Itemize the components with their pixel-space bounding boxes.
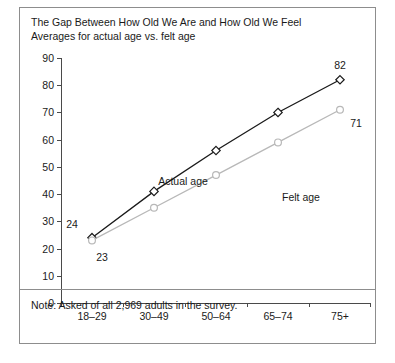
- chart-note: Note: Asked of all 2,969 adults in the s…: [31, 299, 237, 312]
- data-point-marker: [336, 76, 344, 84]
- x-axis-tick: [370, 303, 371, 307]
- y-axis-tick-label: 60: [42, 134, 54, 145]
- x-axis-category-label: 75+: [331, 310, 349, 322]
- data-point-marker: [337, 106, 344, 113]
- y-axis-tick-label: 40: [42, 189, 54, 200]
- chart-title-block: The Gap Between How Old We Are and How O…: [31, 15, 361, 43]
- data-point-marker: [274, 108, 282, 116]
- series-lines: [61, 58, 371, 303]
- data-point-value-label: 23: [96, 252, 108, 263]
- x-axis-category-label: 65–74: [263, 310, 292, 322]
- series-label-felt-age: Felt age: [282, 192, 320, 203]
- data-point-value-label: 82: [334, 60, 346, 71]
- chart-figure: The Gap Between How Old We Are and How O…: [19, 7, 376, 344]
- y-axis-tick-label: 90: [42, 53, 54, 64]
- y-axis-tick-label: 20: [42, 243, 54, 254]
- data-point-value-label: 24: [66, 218, 78, 229]
- data-point-marker: [213, 172, 220, 179]
- y-axis-tick-label: 80: [42, 80, 54, 91]
- data-point-marker: [151, 204, 158, 211]
- series-line-actual-age: [92, 80, 340, 238]
- footer-divider: [20, 289, 375, 290]
- data-point-marker: [212, 146, 220, 154]
- data-point-value-label: 71: [350, 117, 362, 128]
- y-axis-tick-label: 70: [42, 107, 54, 118]
- data-point-marker: [89, 237, 96, 244]
- data-point-marker: [275, 139, 282, 146]
- y-axis-tick-label: 50: [42, 162, 54, 173]
- y-axis-tick-label: 30: [42, 216, 54, 227]
- page-title: The Gap Between How Old We Are and How O…: [31, 15, 361, 29]
- x-axis-tick: [309, 303, 310, 307]
- plot-area: 0102030405060708090 18–2930–4950–6465–74…: [61, 58, 371, 303]
- chart-subtitle: Averages for actual age vs. felt age: [31, 29, 361, 43]
- x-axis-tick: [247, 303, 248, 307]
- series-label-actual-age: Actual age: [158, 176, 208, 187]
- y-axis-tick-label: 10: [42, 271, 54, 282]
